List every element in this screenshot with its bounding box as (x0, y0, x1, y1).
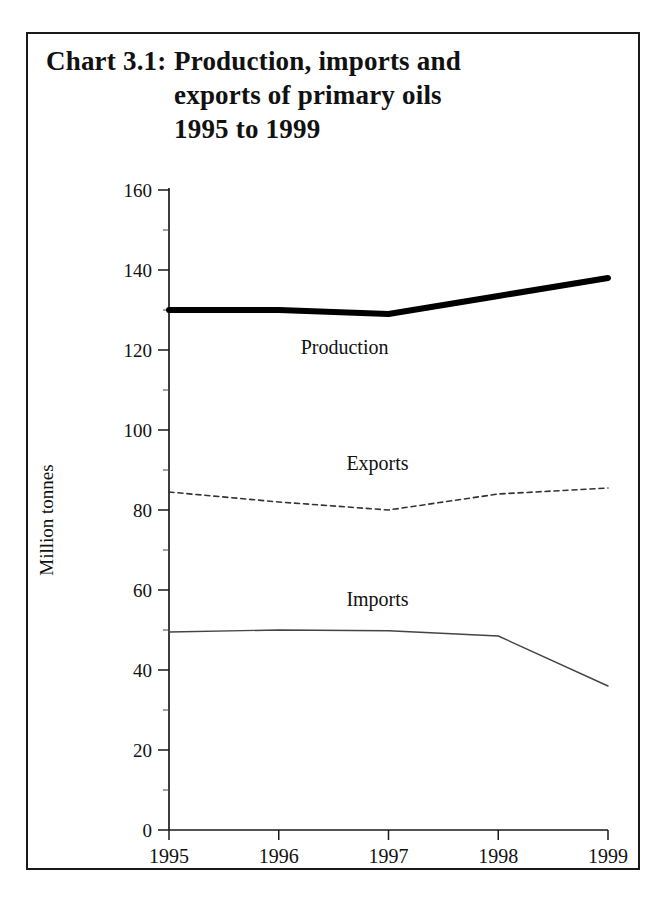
chart-title-line-2: exports of primary oils (174, 78, 626, 112)
chart-title-block: Chart 3.1: Production, imports and expor… (46, 44, 626, 146)
chart-title-line-1: Production, imports and (174, 44, 626, 78)
chart-frame: Chart 3.1: Production, imports and expor… (26, 32, 640, 870)
chart-title-line-3: 1995 to 1999 (174, 112, 626, 146)
chart-number-label: Chart 3.1: (46, 44, 174, 78)
chart-title-text: Production, imports and exports of prima… (174, 44, 626, 146)
